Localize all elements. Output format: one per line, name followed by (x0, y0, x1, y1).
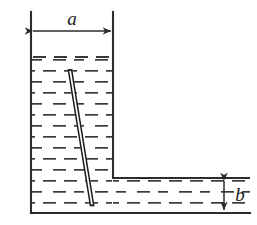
liquid-hatch-basin (113, 178, 250, 213)
dimension-b-label: b (235, 184, 245, 205)
physics-figure: a b (0, 0, 257, 225)
vessel-diagram-canvas: a b (0, 0, 257, 225)
dimension-a: a (31, 8, 113, 44)
liquid-body (32, 57, 250, 213)
dimension-a-label: a (67, 8, 77, 29)
